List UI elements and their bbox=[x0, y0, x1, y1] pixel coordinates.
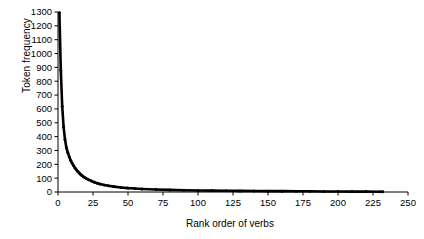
svg-text:200: 200 bbox=[36, 159, 52, 170]
svg-text:700: 700 bbox=[36, 89, 52, 100]
svg-text:1100: 1100 bbox=[32, 34, 52, 45]
svg-text:125: 125 bbox=[225, 197, 241, 208]
svg-text:500: 500 bbox=[36, 117, 52, 128]
y-axis: 0100200300400500600700800900100011001200… bbox=[31, 6, 58, 197]
svg-text:400: 400 bbox=[36, 131, 52, 142]
svg-text:225: 225 bbox=[365, 197, 381, 208]
svg-text:800: 800 bbox=[36, 76, 52, 87]
x-axis-label: Rank order of verbs bbox=[0, 218, 424, 229]
svg-text:1000: 1000 bbox=[31, 48, 52, 59]
y-axis-label: Token frequency bbox=[21, 0, 32, 126]
svg-text:50: 50 bbox=[123, 197, 134, 208]
data-series-line bbox=[59, 13, 382, 192]
svg-text:900: 900 bbox=[36, 62, 52, 73]
data-point-markers bbox=[58, 11, 384, 193]
svg-text:100: 100 bbox=[36, 173, 52, 184]
svg-text:175: 175 bbox=[295, 197, 311, 208]
chart-container: 0100200300400500600700800900100011001200… bbox=[0, 0, 424, 239]
svg-text:300: 300 bbox=[36, 145, 52, 156]
svg-text:25: 25 bbox=[88, 197, 99, 208]
svg-text:75: 75 bbox=[158, 197, 169, 208]
svg-text:200: 200 bbox=[330, 197, 346, 208]
svg-text:1200: 1200 bbox=[31, 20, 52, 31]
x-axis: 0255075100125150175200225250 bbox=[55, 192, 416, 208]
svg-text:100: 100 bbox=[190, 197, 206, 208]
svg-text:250: 250 bbox=[400, 197, 416, 208]
svg-text:1300: 1300 bbox=[31, 6, 52, 17]
svg-text:600: 600 bbox=[36, 103, 52, 114]
svg-text:0: 0 bbox=[55, 197, 60, 208]
token-frequency-plot: 0100200300400500600700800900100011001200… bbox=[0, 0, 424, 239]
svg-text:150: 150 bbox=[260, 197, 276, 208]
svg-text:0: 0 bbox=[47, 186, 52, 197]
